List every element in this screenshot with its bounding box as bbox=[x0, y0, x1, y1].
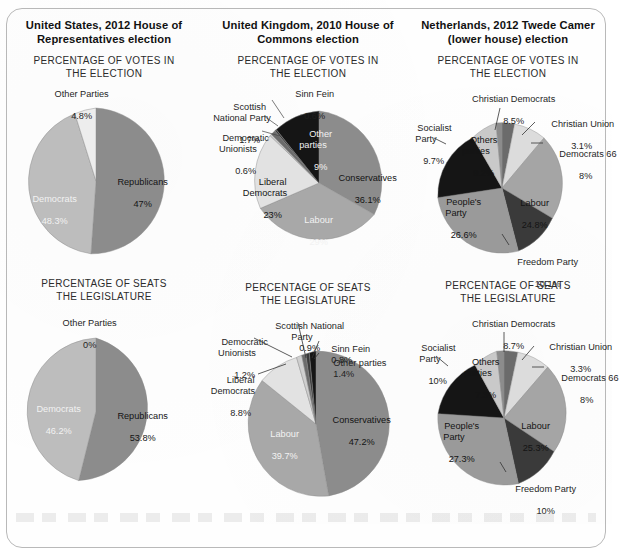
chart-nl-votes: Christian Democrats 8.5% Christian Union… bbox=[404, 82, 612, 264]
label-text: Other Parties bbox=[55, 89, 109, 99]
label-us-seats-other: Other Parties 0% bbox=[28, 307, 136, 362]
label-value: 53.8% bbox=[130, 433, 156, 443]
chart-uk-seats: Scottish NationalParty 0.9% Sinn Fein 0.… bbox=[206, 306, 410, 506]
label-text: Other Parties bbox=[63, 318, 117, 328]
leader-lines-nl-seats bbox=[404, 306, 612, 506]
label-value: 0% bbox=[83, 340, 96, 350]
label-us-votes-other: Other Parties 4.8% bbox=[20, 78, 128, 133]
label-value: 4.8% bbox=[71, 111, 92, 121]
leader-lines-uk-seats bbox=[206, 306, 410, 506]
country-title-nl: Netherlands, 2012 Twede Camer(lower hous… bbox=[404, 18, 612, 46]
section-title-nl-seats: PERCENTAGE OF SEATSTHE LEGISLATURE bbox=[404, 280, 612, 305]
chart-nl-seats: Christian Democrats 8.7% Christian Union… bbox=[404, 306, 612, 506]
label-value: 48.3% bbox=[42, 216, 68, 226]
label-text: Democrats bbox=[32, 194, 76, 204]
label-text: Democrats bbox=[36, 404, 80, 414]
section-title-nl-votes: PERCENTAGE OF VOTES INTHE ELECTION bbox=[404, 55, 612, 80]
country-title-us: United States, 2012 House ofRepresentati… bbox=[2, 18, 206, 46]
country-title-uk: United Kingdom, 2010 House ofCommons ele… bbox=[206, 18, 410, 46]
label-value: 46.2% bbox=[46, 426, 72, 436]
page-caption-fragment bbox=[16, 513, 596, 522]
label-us-votes-republicans: Republicans 47% bbox=[102, 166, 168, 221]
label-text: Republicans bbox=[117, 177, 168, 187]
label-value: 47% bbox=[133, 199, 151, 209]
label-us-seats-democrats: Democrats 46.2% bbox=[20, 393, 82, 448]
leader-lines-nl-votes bbox=[404, 82, 612, 264]
section-title-us-votes: PERCENTAGE OF VOTES INTHE ELECTION bbox=[2, 55, 206, 80]
section-title-us-seats: PERCENTAGE OF SEATSTHE LEGISLATURE bbox=[2, 278, 206, 303]
chart-us-seats: Other Parties 0% Republicans 53.8% Democ… bbox=[2, 305, 206, 495]
section-title-uk-seats: PERCENTAGE OF SEATSTHE LEGISLATURE bbox=[206, 282, 410, 307]
label-us-seats-republicans: Republicans 53.8% bbox=[102, 400, 168, 455]
label-text: Republicans bbox=[117, 411, 168, 421]
leader-lines-uk-votes bbox=[206, 80, 410, 270]
section-title-uk-votes: PERCENTAGE OF VOTES INTHE ELECTION bbox=[206, 55, 410, 80]
chart-us-votes: Other Parties 4.8% Republicans 47% Democ… bbox=[2, 78, 206, 263]
chart-uk-votes: Sinn Fein 0.6% ScottishNational Party 1.… bbox=[206, 80, 410, 270]
label-us-votes-democrats: Democrats 48.3% bbox=[16, 183, 78, 238]
